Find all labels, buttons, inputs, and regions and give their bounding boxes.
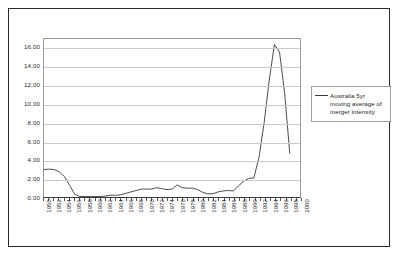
x-tick-label: 1996: [283, 199, 289, 213]
y-gridline: [44, 161, 300, 162]
legend-entry-label: Australia 5yr moving average of merger i…: [330, 92, 386, 116]
x-tick-label: 1990: [252, 199, 258, 213]
x-tick-label: 1952: [56, 199, 62, 213]
x-tick-label: 1978: [190, 199, 196, 213]
x-tick-label: 1988: [242, 199, 248, 213]
y-tick-label: 16.00: [4, 44, 40, 50]
y-gridline: [44, 67, 300, 68]
x-tick-label: 1994: [273, 199, 279, 213]
y-gridline: [44, 180, 300, 181]
x-tick-label: 1960: [97, 199, 103, 213]
x-tick-label: 1976: [180, 199, 186, 213]
x-tick-label: 1984: [221, 199, 227, 213]
series-line-australia-merger-intensity: [44, 39, 300, 197]
y-gridline: [44, 124, 300, 125]
x-tick-label: 1992: [262, 199, 268, 213]
x-tick-label: 1970: [149, 199, 155, 213]
x-tick-label: 1998: [293, 199, 299, 213]
x-tick-label: 1958: [87, 199, 93, 213]
y-tick-label: 8.00: [4, 120, 40, 126]
x-tick-mark: [301, 198, 302, 201]
y-tick-label: 4.00: [4, 157, 40, 163]
y-gridline: [44, 86, 300, 87]
y-gridline: [44, 105, 300, 106]
y-tick-label: 12.00: [4, 82, 40, 88]
x-tick-label: 1964: [118, 199, 124, 213]
y-tick-label: 14.00: [4, 63, 40, 69]
legend-line-swatch-icon: [315, 95, 328, 96]
y-tick-label: 0.00: [4, 195, 40, 201]
x-tick-label: 1966: [128, 199, 134, 213]
x-tick-label: 1982: [211, 199, 217, 213]
x-tick-label: 1962: [107, 199, 113, 213]
chart-legend: Australia 5yr moving average of merger i…: [311, 86, 391, 122]
x-tick-label: 2000: [304, 199, 310, 213]
x-tick-label: 1980: [200, 199, 206, 213]
x-tick-label: 1974: [169, 199, 175, 213]
chart-area: 0.002.004.006.008.0010.0012.0014.0016.00…: [0, 0, 406, 263]
y-tick-label: 10.00: [4, 101, 40, 107]
y-gridline: [44, 143, 300, 144]
y-axis-labels: 0.002.004.006.008.0010.0012.0014.0016.00: [0, 38, 40, 198]
figure-container: 0.002.004.006.008.0010.0012.0014.0016.00…: [0, 0, 406, 263]
x-axis-labels: 1950195219541956195819601962196419661968…: [43, 199, 301, 243]
legend-entry: Australia 5yr moving average of merger i…: [315, 92, 386, 116]
x-tick-label: 1968: [138, 199, 144, 213]
x-tick-label: 1972: [159, 199, 165, 213]
x-tick-label: 1950: [46, 199, 52, 213]
plot-region: [43, 38, 301, 198]
y-tick-label: 2.00: [4, 176, 40, 182]
y-tick-label: 6.00: [4, 139, 40, 145]
x-tick-label: 1986: [231, 199, 237, 213]
x-tick-label: 1954: [66, 199, 72, 213]
y-gridline: [44, 48, 300, 49]
x-tick-label: 1956: [76, 199, 82, 213]
